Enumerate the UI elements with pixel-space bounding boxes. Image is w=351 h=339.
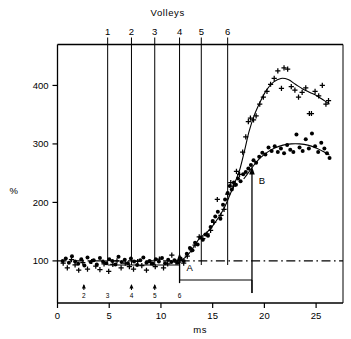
x-tick-label-5: 5 — [107, 310, 112, 321]
stimulus-marker-label-5: 5 — [153, 292, 157, 299]
data-point — [276, 150, 280, 154]
data-point — [221, 203, 225, 207]
volley-tick-label-1: 1 — [105, 26, 110, 37]
figure-container: AB23456 123456Volleys0510152025100200300… — [0, 0, 351, 339]
data-point — [95, 262, 99, 266]
data-point — [298, 145, 302, 149]
data-point — [218, 217, 222, 221]
fit-curve-crosses-fit — [181, 78, 330, 261]
data-point — [230, 188, 234, 192]
data-point — [110, 259, 114, 263]
series-dots — [61, 131, 332, 267]
chart-canvas: AB23456 123456Volleys0510152025100200300… — [0, 0, 351, 339]
data-point — [132, 259, 136, 263]
data-point — [301, 149, 305, 153]
y-tick-label-300: 300 — [33, 138, 49, 149]
stimulus-marker-label-2: 2 — [82, 292, 86, 299]
x-tick-label-25: 25 — [311, 310, 322, 321]
data-point — [98, 256, 102, 260]
data-point — [304, 137, 308, 141]
data-point — [76, 262, 80, 266]
data-point — [123, 258, 127, 262]
stimulus-arrowhead-2 — [82, 284, 86, 289]
data-point — [320, 83, 325, 88]
data-point — [160, 256, 164, 260]
data-point — [138, 258, 142, 262]
y-tick-label-200: 200 — [33, 197, 49, 208]
top-axis-label: Volleys — [151, 7, 185, 18]
data-point — [119, 265, 124, 270]
data-point — [267, 145, 271, 149]
data-point — [246, 166, 250, 170]
data-point — [117, 255, 121, 259]
data-point — [239, 179, 243, 183]
data-point — [273, 144, 277, 148]
annotation-label-A: A — [186, 262, 193, 273]
volley-tick-label-5: 5 — [199, 26, 204, 37]
data-point — [196, 243, 200, 247]
data-point — [285, 66, 290, 71]
data-point — [226, 191, 230, 195]
data-point — [161, 265, 166, 270]
data-point — [185, 252, 189, 256]
y-tick-label-400: 400 — [33, 80, 49, 91]
y-tick-label-100: 100 — [33, 255, 49, 266]
data-point — [148, 259, 152, 263]
volley-tick-label-6: 6 — [225, 26, 230, 37]
data-point — [129, 257, 133, 261]
volley-tick-label-3: 3 — [152, 26, 157, 37]
data-point — [104, 261, 108, 265]
data-point — [312, 89, 317, 94]
data-point — [64, 257, 68, 261]
data-point — [79, 257, 83, 261]
x-tick-label-15: 15 — [207, 310, 218, 321]
data-point — [209, 225, 213, 229]
data-point — [285, 143, 289, 147]
data-point — [263, 152, 267, 156]
data-point — [151, 262, 155, 266]
data-point — [319, 141, 323, 145]
x-tick-label-20: 20 — [259, 310, 270, 321]
data-point — [169, 252, 174, 257]
data-point — [279, 86, 284, 91]
stimulus-marker-label-4: 4 — [130, 292, 134, 299]
data-point — [282, 151, 286, 155]
data-point — [82, 264, 86, 268]
data-point — [206, 234, 210, 238]
data-point — [92, 258, 96, 262]
stimulus-marker-label-3: 3 — [106, 292, 110, 299]
data-point — [292, 88, 297, 93]
data-point — [113, 262, 117, 266]
data-point — [190, 248, 194, 252]
data-point — [157, 259, 161, 263]
data-point — [126, 261, 130, 265]
data-point — [294, 133, 298, 137]
data-point — [163, 261, 167, 265]
data-point — [281, 65, 286, 70]
y-axis-title: % — [9, 185, 18, 196]
data-point — [249, 163, 253, 167]
data-point — [322, 147, 326, 151]
data-point — [85, 255, 89, 259]
data-point — [223, 197, 227, 201]
data-point — [279, 147, 283, 151]
data-points-group — [61, 65, 332, 274]
axis-text-group: 123456Volleys0510152025100200300400ms% — [9, 7, 321, 335]
data-point — [234, 183, 238, 187]
data-point — [257, 155, 261, 159]
data-point — [291, 150, 295, 154]
data-point — [300, 90, 305, 95]
data-point — [313, 144, 317, 148]
volley-tick-label-2: 2 — [129, 26, 134, 37]
data-point — [307, 147, 311, 151]
data-point — [215, 197, 220, 202]
data-point — [97, 267, 102, 272]
data-point — [201, 238, 205, 242]
plot-frame — [58, 45, 344, 304]
axis-ticks-group — [53, 85, 317, 308]
data-point — [144, 268, 149, 273]
x-tick-label-0: 0 — [55, 310, 60, 321]
annotation-label-B: B — [259, 175, 265, 186]
data-point — [325, 151, 329, 155]
data-point — [310, 131, 314, 135]
